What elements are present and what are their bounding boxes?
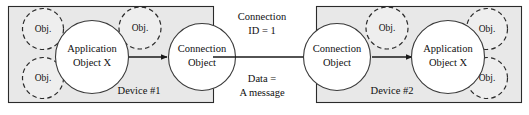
device-1-group: Obj. Obj. Obj. Application Object X Conn… [9, 7, 236, 103]
connection-id-label-line2: ID = 1 [248, 25, 276, 36]
obj-left-middle-top-label: Obj. [132, 23, 149, 33]
connection-object-left-line2: Object [188, 57, 216, 68]
app-object-x-right: Application Object X [412, 21, 485, 94]
obj-right-top-label: Obj. [479, 24, 496, 34]
obj-right-middle-top-label: Obj. [379, 23, 396, 33]
data-label-line1: Data = [248, 73, 276, 84]
device-2-label: Device #2 [371, 85, 414, 96]
obj-right-middle-top: Obj. [366, 7, 408, 49]
device-2-group: Obj. Obj. Obj. Connection Object Applica… [304, 7, 522, 103]
obj-left-top: Obj. [23, 9, 64, 50]
data-label-line2: A message [239, 87, 285, 98]
obj-left-top-label: Obj. [35, 24, 52, 34]
app-object-x-left-line2: Object X [73, 57, 112, 68]
connection-object-left-line1: Connection [178, 43, 227, 54]
app-object-x-right-line1: Application [423, 43, 473, 54]
device-1-label: Device #1 [118, 85, 161, 96]
obj-left-bottom-label: Obj. [35, 73, 52, 83]
app-object-x-right-line2: Object X [429, 57, 468, 68]
connection-object-diagram: Obj. Obj. Obj. Application Object X Conn… [0, 0, 529, 115]
obj-right-bottom-label: Obj. [479, 73, 496, 83]
connection-object-right-line2: Object [323, 57, 351, 68]
connection-object-right-line1: Connection [313, 43, 362, 54]
connection-id-label-line1: Connection [238, 11, 287, 22]
app-object-x-left: Application Object X [56, 21, 129, 94]
connection-object-right: Connection Object [304, 24, 371, 91]
diagram-canvas: Obj. Obj. Obj. Application Object X Conn… [0, 0, 529, 115]
app-object-x-left-line1: Application [67, 43, 117, 54]
